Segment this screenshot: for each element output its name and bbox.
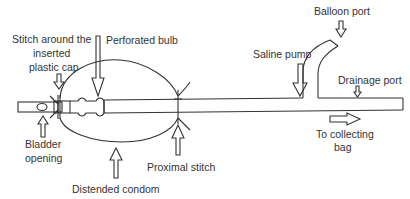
collecting-bag-arrow-icon bbox=[330, 113, 360, 125]
proximal-stitch-arrow-icon bbox=[172, 125, 184, 155]
bladder-opening-hole bbox=[37, 104, 47, 111]
stitch-cap-label-line1: Stitch around the bbox=[12, 33, 92, 45]
drainage-port-arrow-icon bbox=[354, 86, 361, 97]
balloon-port-arrow-icon bbox=[336, 21, 346, 37]
stitch-cap-label-line3: plastic cap bbox=[29, 61, 79, 73]
bladder-opening-arrow-icon bbox=[38, 116, 48, 137]
catheter-diagram: Stitch around the inserted plastic cap P… bbox=[0, 0, 410, 199]
collecting-bag-label-line2: bag bbox=[334, 141, 352, 153]
perforated-bulb bbox=[70, 98, 104, 116]
stitch-cap-label-line2: inserted bbox=[33, 47, 71, 59]
bladder-opening-label-line1: Bladder bbox=[25, 138, 62, 150]
drainage-port-label: Drainage port bbox=[338, 74, 402, 86]
collecting-bag-label-line1: To collecting bbox=[316, 128, 374, 140]
perforated-bulb-arrow-icon bbox=[92, 36, 104, 96]
bladder-opening-label-line2: opening bbox=[25, 152, 63, 164]
saline-pump-arrow-icon bbox=[293, 64, 307, 96]
proximal-stitch-flare bbox=[178, 82, 190, 130]
balloon-port-label: Balloon port bbox=[314, 5, 370, 17]
perforated-bulb-label: Perforated bulb bbox=[106, 34, 178, 46]
proximal-stitch-label: Proximal stitch bbox=[147, 161, 215, 173]
distended-condom-label: Distended condom bbox=[72, 183, 160, 195]
saline-pump-label: Saline pump bbox=[253, 48, 312, 60]
distended-condom-arrow-icon bbox=[110, 148, 122, 178]
shaft-bottom bbox=[104, 110, 403, 113]
shaft-top bbox=[104, 98, 303, 100]
